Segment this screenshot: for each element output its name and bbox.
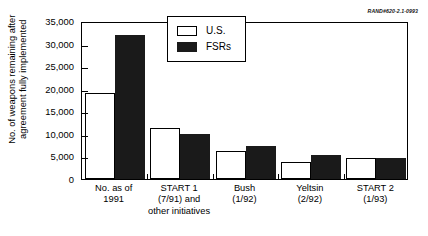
bar-fsrs	[376, 158, 406, 179]
bar-fsrs	[311, 155, 341, 179]
y-axis-tick-label: 30,000	[45, 40, 74, 49]
x-axis-tick-mark	[147, 174, 148, 179]
bar-u-s	[346, 158, 376, 179]
hollow-square-icon	[177, 26, 197, 36]
bar-u-s	[216, 151, 246, 179]
y-axis-tick-labels: 05,00010,00015,00020,00025,00030,00035,0…	[26, 16, 78, 186]
legend-item-label: FSRs	[206, 42, 231, 52]
bar-fsrs	[180, 134, 210, 179]
y-axis-tick-mark	[82, 136, 88, 137]
rand-document-id: RAND#620-2.1-0993	[368, 8, 418, 14]
x-axis-tick-mark	[344, 174, 345, 179]
bar-fsrs	[246, 146, 276, 179]
y-axis-tick-label: 10,000	[45, 130, 74, 139]
x-axis-category-labels: No. as of 1991START 1 (7/91) and other i…	[81, 183, 408, 233]
y-axis-tick-label: 20,000	[45, 85, 74, 94]
y-axis-tick-mark	[82, 68, 88, 69]
y-axis-tick-mark	[82, 91, 88, 92]
y-axis-tick-label: 35,000	[45, 17, 74, 26]
bar-u-s	[281, 162, 311, 179]
x-axis-tick-mark	[278, 174, 279, 179]
y-axis-tick-label: 5,000	[51, 153, 74, 162]
y-axis-tick-mark	[82, 46, 88, 47]
legend-item-label: U.S.	[206, 26, 225, 36]
bar-chart-figure: RAND#620-2.1-0993 No. of weapons remaini…	[0, 0, 428, 236]
bar-fsrs	[115, 35, 145, 179]
y-axis-tick-mark	[82, 113, 88, 114]
bar-u-s	[150, 128, 180, 179]
x-axis-tick-mark	[213, 174, 214, 179]
legend: U.S.FSRs	[167, 16, 246, 62]
y-axis-tick-mark	[82, 158, 88, 159]
x-axis-category-label: START 2 (1/93)	[335, 183, 416, 206]
legend-item: U.S.	[177, 23, 231, 39]
y-axis-tick-label: 25,000	[45, 62, 74, 71]
y-axis-tick-label: 15,000	[45, 108, 74, 117]
legend-item: FSRs	[177, 39, 231, 55]
filled-square-icon	[177, 42, 197, 52]
bar-u-s	[85, 93, 115, 179]
